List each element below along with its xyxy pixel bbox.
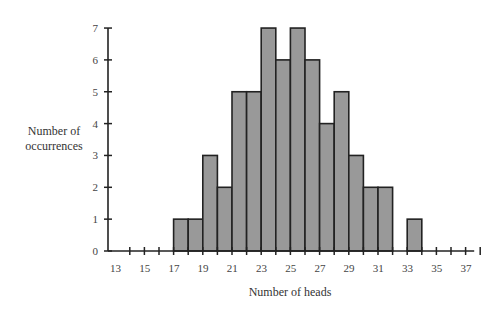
x-tick-label: 13 [110,262,122,274]
x-axis-label: Number of heads [200,285,380,300]
histogram-bar [320,124,335,251]
y-tick-label: 5 [93,86,99,98]
y-tick-label: 7 [93,22,99,34]
histogram-bars [174,28,422,251]
histogram-bar [188,219,203,251]
histogram-bar [407,219,422,251]
histogram-bar [232,92,247,251]
histogram-bar [349,155,364,251]
histogram-bar [203,155,218,251]
x-tick-label: 27 [314,262,326,274]
x-tick-label: 29 [344,262,356,274]
y-axis-ticks: 01234567 [93,22,113,257]
x-tick-label: 23 [256,262,268,274]
y-tick-label: 2 [93,181,99,193]
histogram-bar [174,219,189,251]
y-tick-label: 0 [93,245,99,257]
x-tick-label: 37 [460,262,472,274]
y-tick-label: 6 [93,54,99,66]
y-axis-label-line1: Number of [14,124,94,139]
histogram-bar [276,60,291,251]
x-tick-label: 31 [373,262,384,274]
y-tick-label: 1 [93,213,99,225]
histogram-bar [378,187,393,251]
histogram-bar [305,60,320,251]
histogram-bar [334,92,349,251]
x-tick-label: 15 [139,262,151,274]
histogram-bar [290,28,305,251]
histogram-bar [363,187,378,251]
histogram-bar [261,28,276,251]
x-tick-label: 33 [402,262,414,274]
y-axis-label: Number of occurrences [14,124,94,154]
y-axis-label-line2: occurrences [14,139,94,154]
x-tick-label: 25 [285,262,297,274]
x-tick-label: 17 [168,262,180,274]
x-tick-label: 19 [198,262,210,274]
histogram-bar [217,187,232,251]
x-tick-label: 35 [431,262,443,274]
x-tick-label: 21 [227,262,238,274]
histogram-bar [247,92,262,251]
histogram-chart: 01234567 13151719212325272931333537 [0,0,498,311]
